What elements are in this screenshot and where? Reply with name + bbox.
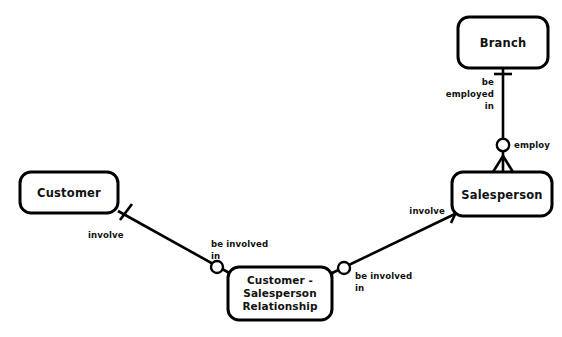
edge-label-relationship-left-line2: in [211, 251, 220, 261]
cardinality-zero-relationship-right-icon [338, 262, 350, 274]
entity-branch-label: Branch [480, 36, 527, 50]
cardinality-zero-salesperson-icon [497, 139, 509, 151]
er-diagram-canvas: Customer Branch Salesperson Customer - S… [0, 0, 562, 337]
relationship-label-line2: Salesperson [243, 287, 316, 299]
edge-label-branch-employed-line1: be [482, 77, 494, 87]
relationship-label-line3: Relationship [242, 300, 318, 312]
edge-label-branch-employed-line2: employed [446, 89, 494, 99]
edge-label-relationship-left-line1: be involved [211, 239, 268, 249]
edge-label-relationship-right-line1: be involved [355, 271, 412, 281]
relationship-label-line1: Customer - [247, 274, 313, 286]
entity-customer-label: Customer [37, 186, 101, 200]
edge-label-relationship-right-line2: in [355, 283, 364, 293]
edge-label-branch-employed-line3: in [485, 101, 494, 111]
edge-label-salesperson-involve: involve [409, 206, 445, 216]
er-diagram-svg: Customer Branch Salesperson Customer - S… [0, 0, 562, 337]
cardinality-zero-relationship-left-icon [211, 261, 223, 273]
entity-salesperson[interactable]: Salesperson [452, 172, 552, 216]
edge-label-customer-involve: involve [88, 230, 124, 240]
entity-branch[interactable]: Branch [458, 17, 548, 68]
edge-label-salesperson-employ: employ [514, 140, 550, 150]
connection-branch-salesperson [493, 68, 513, 172]
entity-salesperson-label: Salesperson [461, 188, 542, 202]
relationship-customer-salesperson[interactable]: Customer - Salesperson Relationship [228, 267, 332, 320]
entity-customer[interactable]: Customer [20, 172, 118, 213]
